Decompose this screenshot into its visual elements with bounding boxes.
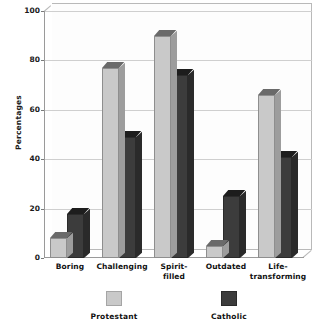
bar-front-face	[206, 246, 223, 258]
bar-protestant-4	[258, 95, 275, 258]
legend-swatch-catholic	[221, 291, 237, 306]
y-tick-mark	[41, 258, 44, 259]
bar-side-face	[292, 152, 298, 258]
bar-side-face	[119, 63, 125, 258]
bar-chart: Percentages 020406080100 BoringChallengi…	[0, 0, 324, 330]
x-axis-label-line: filled	[139, 272, 209, 282]
legend-swatch-protestant	[106, 291, 122, 306]
bar-side-face	[84, 208, 90, 258]
y-tick-label: 20	[30, 204, 40, 213]
bar-front-face	[50, 238, 67, 258]
plot-bottom-edge	[303, 250, 312, 258]
plot-area: 020406080100	[44, 11, 312, 258]
bar-side-face	[171, 30, 177, 258]
bar-side-face	[240, 191, 246, 258]
y-tick-label: 60	[30, 105, 40, 114]
bar-protestant-2	[154, 36, 171, 258]
bar-side-face	[275, 90, 281, 258]
bar-protestant-0	[50, 238, 67, 258]
bar-front-face	[102, 68, 119, 258]
bar-protestant-3	[206, 246, 223, 258]
legend-entry-protestant[interactable]: Protestant	[74, 291, 154, 321]
y-tick-label: 80	[30, 55, 40, 64]
legend-entry-catholic[interactable]: Catholic	[189, 291, 269, 321]
x-axis-label-line: Life-	[243, 262, 313, 272]
x-axis-labels: BoringChallengingSpirit-filledOutdatedLi…	[44, 262, 312, 292]
bar-front-face	[154, 36, 171, 258]
legend-label-catholic: Catholic	[189, 312, 269, 321]
bar-front-face	[258, 95, 275, 258]
x-axis-label-line: transforming	[243, 272, 313, 282]
y-tick-label: 40	[30, 154, 40, 163]
y-axis-label: Percentages	[14, 88, 23, 158]
y-tick-label: 0	[35, 253, 40, 262]
bar-protestant-1	[102, 68, 119, 258]
chart-legend: ProtestantCatholic	[0, 291, 324, 330]
x-axis-label-4: Life-transforming	[243, 262, 313, 281]
legend-label-protestant: Protestant	[74, 312, 154, 321]
y-tick: 0	[44, 258, 45, 259]
bar-side-face	[136, 132, 142, 258]
y-tick-label: 100	[24, 6, 40, 15]
bar-side-face	[188, 70, 194, 258]
